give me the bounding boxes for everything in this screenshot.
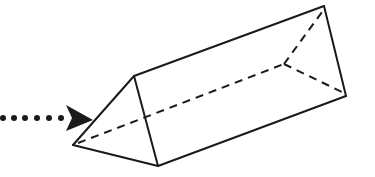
prism-visible-edges	[73, 6, 346, 166]
arrow-dot	[34, 115, 40, 121]
diagram-svg	[0, 0, 375, 177]
hidden-back-edge-top	[284, 12, 322, 64]
dotted-arrow	[0, 105, 93, 131]
bottom-lateral-edge	[158, 96, 346, 166]
prism-hidden-edges	[78, 12, 342, 143]
front-face-edge-bottom-apex	[73, 145, 158, 166]
front-face-edge-apex-top	[73, 76, 134, 145]
prism-diagram	[0, 0, 375, 177]
top-lateral-edge	[134, 6, 324, 76]
arrow-dot	[0, 115, 6, 121]
arrow-dot	[58, 115, 64, 121]
arrow-dot	[11, 115, 17, 121]
arrow-dot	[46, 115, 52, 121]
hidden-back-edge-bottom	[284, 64, 342, 92]
arrow-dot	[22, 115, 28, 121]
back-face-visible-edge	[324, 6, 346, 96]
